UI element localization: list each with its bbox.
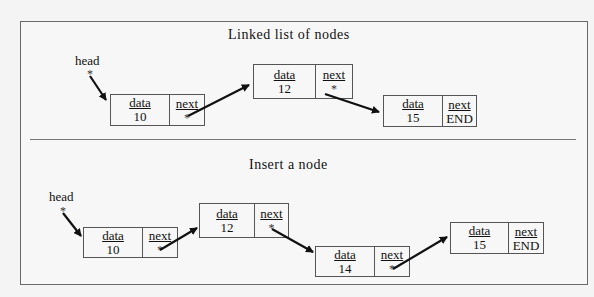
data-header: data xyxy=(402,97,424,111)
next-pointer: * xyxy=(269,221,275,235)
bottom-head-label: head xyxy=(49,189,74,205)
data-value: 15 xyxy=(407,111,420,125)
bottom-node-10: data 10 next * xyxy=(83,227,178,258)
data-field: data 15 xyxy=(384,96,443,126)
next-field: next * xyxy=(316,65,352,98)
next-field: next * xyxy=(375,247,409,276)
top-head-pointer: * xyxy=(87,67,93,82)
next-pointer: * xyxy=(389,262,395,276)
next-field: next * xyxy=(143,228,177,257)
data-value: 14 xyxy=(339,262,352,276)
top-node-12: data 12 next * xyxy=(253,64,353,99)
data-field: data 15 xyxy=(451,223,509,253)
data-header: data xyxy=(216,207,238,221)
bottom-section-title: Insert a node xyxy=(249,157,328,173)
data-value: 12 xyxy=(221,221,234,235)
data-value: 12 xyxy=(278,82,291,96)
next-header: next xyxy=(448,98,470,112)
bottom-node-12: data 12 next * xyxy=(199,203,289,238)
next-field: next END xyxy=(443,96,476,126)
next-pointer: * xyxy=(184,111,190,125)
next-header: next xyxy=(149,229,171,243)
data-header: data xyxy=(274,68,296,82)
next-field: next * xyxy=(255,204,288,237)
data-field: data 10 xyxy=(111,95,170,125)
bottom-node-15: data 15 next END xyxy=(450,222,544,254)
section-divider xyxy=(30,139,576,140)
data-value: 10 xyxy=(107,243,120,257)
data-header: data xyxy=(469,224,491,238)
top-node-10: data 10 next * xyxy=(110,94,205,126)
data-value: 15 xyxy=(473,238,486,252)
top-node-15: data 15 next END xyxy=(383,95,477,127)
top-section-title: Linked list of nodes xyxy=(228,27,350,43)
data-header: data xyxy=(334,248,356,262)
next-header: next xyxy=(176,97,198,111)
next-end: END xyxy=(446,112,473,126)
next-field: next * xyxy=(170,95,204,125)
bottom-head-pointer: * xyxy=(60,204,66,219)
data-value: 10 xyxy=(134,110,147,124)
next-pointer: * xyxy=(331,82,337,96)
next-pointer: * xyxy=(157,243,163,257)
bottom-node-14-inserted: data 14 next * xyxy=(315,246,410,277)
data-header: data xyxy=(129,96,151,110)
next-header: next xyxy=(381,248,403,262)
next-header: next xyxy=(515,225,537,239)
next-field: next END xyxy=(509,223,543,253)
next-header: next xyxy=(260,207,282,221)
next-header: next xyxy=(323,68,345,82)
data-field: data 12 xyxy=(254,65,316,98)
data-field: data 12 xyxy=(200,204,255,237)
next-end: END xyxy=(513,239,540,253)
data-field: data 14 xyxy=(316,247,375,276)
data-field: data 10 xyxy=(84,228,143,257)
data-header: data xyxy=(102,229,124,243)
